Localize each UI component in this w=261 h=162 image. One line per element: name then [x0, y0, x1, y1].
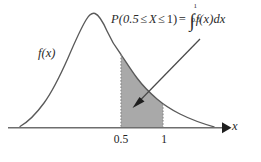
formula-integrand: f(x)dx [196, 12, 226, 26]
formula-relation-lower: ≤ [139, 12, 149, 26]
density-curve [20, 13, 214, 127]
x-tick-label-0point5: 0.5 [106, 133, 136, 145]
density-function-label: f(x) [38, 47, 55, 60]
x-axis-label: x [232, 120, 238, 133]
x-tick-label-1: 1 [149, 133, 179, 145]
formula-closing-paren: 1) [167, 12, 178, 26]
probability-density-figure: P(0.5≤X≤1)=∫10.5f(x)dx f(x) x 0.5 1 [0, 0, 261, 162]
formula-relation-upper: ≤ [157, 12, 167, 26]
formula-random-variable: X [149, 12, 157, 26]
formula-probability-term: P(0.5 [111, 12, 139, 26]
shaded-area-region [121, 55, 163, 128]
formula-equals-sign: = [177, 12, 187, 26]
callout-leader-line [139, 39, 200, 102]
x-axis-arrowhead [222, 122, 232, 133]
probability-formula: P(0.5≤X≤1)=∫10.5f(x)dx [111, 13, 225, 26]
